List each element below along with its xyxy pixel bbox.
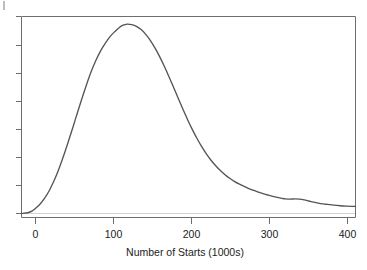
plot-frame-border	[22, 17, 356, 218]
x-tick-label-300: 300	[261, 228, 279, 240]
y-axis-ticks	[16, 17, 21, 214]
density-curve	[22, 24, 356, 213]
scan-artifact-mark	[3, 1, 5, 10]
density-chart-figure: 0 100 200 300 400 Number of Starts (1000…	[0, 0, 367, 270]
x-axis-title: Number of Starts (1000s)	[126, 246, 244, 258]
x-tick-label-200: 200	[183, 228, 201, 240]
x-tick-label-0: 0	[33, 228, 39, 240]
chart-canvas: 0 100 200 300 400 Number of Starts (1000…	[0, 0, 367, 270]
x-tick-label-100: 100	[105, 228, 123, 240]
x-tick-label-400: 400	[339, 228, 357, 240]
x-axis-ticks	[36, 218, 348, 224]
